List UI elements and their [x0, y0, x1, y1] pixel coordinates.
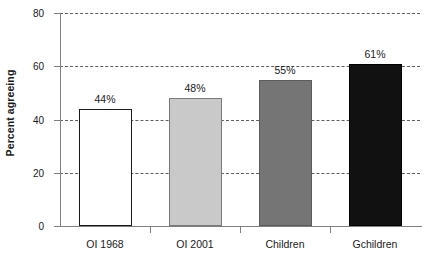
bar: [169, 98, 222, 226]
gridline: [60, 13, 420, 14]
x-axis-category-label: OI 2001: [150, 238, 240, 250]
x-axis-line: [56, 226, 422, 227]
bar-value-label: 55%: [255, 64, 315, 76]
y-axis-tick: [54, 13, 61, 14]
bar: [79, 109, 132, 226]
y-axis-tick-label: 60: [0, 61, 44, 72]
y-axis-tick-label: 80: [0, 8, 44, 19]
y-axis-title-label: Percent agreeing: [4, 70, 16, 157]
y-axis-title: Percent agreeing: [0, 0, 20, 226]
bar: [259, 80, 312, 226]
y-axis-tick-label: 0: [0, 221, 44, 232]
x-axis-category-label: OI 1968: [60, 238, 150, 250]
bar-chart: Percent agreeing 020406080 44%48%55%61% …: [0, 0, 428, 262]
x-axis-category-label: Children: [240, 238, 330, 250]
y-axis-tick-label: 40: [0, 114, 44, 125]
x-axis-tick: [150, 226, 151, 233]
y-axis-tick: [54, 120, 61, 121]
bar-value-label: 48%: [165, 82, 225, 94]
y-axis-tick: [54, 226, 61, 227]
y-axis-tick: [54, 173, 61, 174]
y-axis-tick: [54, 66, 61, 67]
bar: [349, 64, 402, 226]
x-axis-category-label: Gchildren: [330, 238, 420, 250]
x-axis-tick: [330, 226, 331, 233]
bar-value-label: 44%: [75, 93, 135, 105]
x-axis-tick: [240, 226, 241, 233]
bar-value-label: 61%: [345, 48, 405, 60]
y-axis-tick-label: 20: [0, 167, 44, 178]
